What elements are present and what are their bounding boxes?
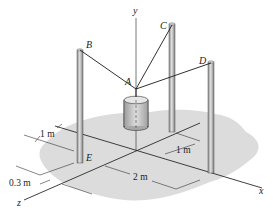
point-label-B: B	[86, 39, 92, 50]
dimension-2m-label: 2 m	[133, 172, 148, 182]
cable-support-diagram: y x z B C D A E	[0, 0, 273, 211]
point-label-A: A	[124, 76, 132, 87]
dimension-1m-left-label: 1 m	[40, 129, 55, 139]
cables	[80, 25, 211, 97]
x-axis-label: x	[258, 185, 264, 196]
point-label-E: E	[85, 152, 92, 163]
cylinder-weight	[124, 96, 148, 130]
point-label-C: C	[160, 20, 167, 31]
post-D	[208, 61, 214, 173]
y-axis-label: y	[132, 5, 138, 16]
z-axis-label: z	[16, 197, 21, 208]
ground-shadow	[39, 110, 258, 201]
dimension-1m-right-label: 1 m	[176, 145, 191, 155]
cable-AC	[136, 25, 172, 89]
dimension-0.3m-label: 0.3 m	[9, 178, 31, 188]
post-B-E	[77, 49, 83, 163]
point-label-D: D	[198, 55, 207, 66]
